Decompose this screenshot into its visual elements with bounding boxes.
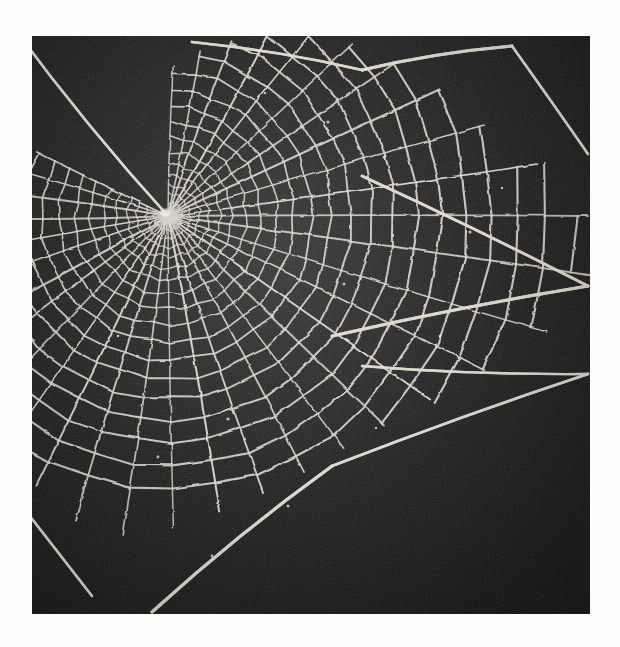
radial-thread xyxy=(168,215,588,216)
photograph xyxy=(32,36,590,614)
spider-web-illustration xyxy=(32,36,590,614)
page-canvas xyxy=(0,0,620,647)
